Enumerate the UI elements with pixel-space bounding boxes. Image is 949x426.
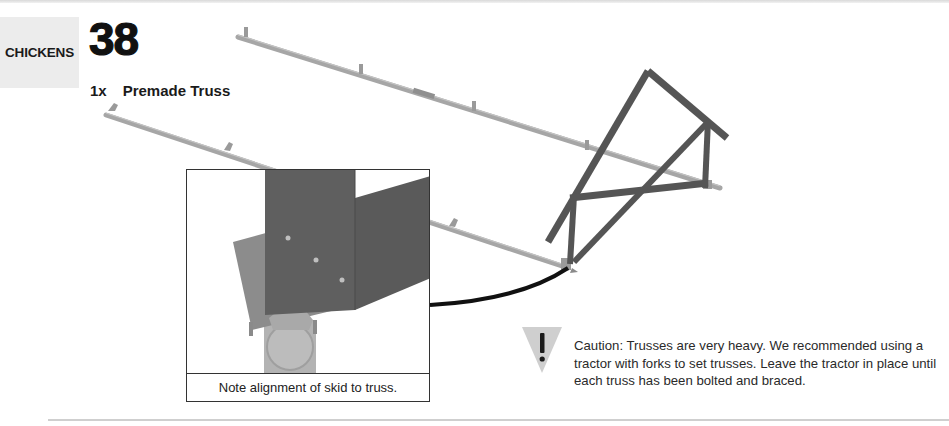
detail-inset: Note alignment of skid to truss. [186, 169, 430, 402]
bottom-rule [48, 419, 949, 421]
truss [548, 71, 727, 264]
back-skid [238, 27, 720, 189]
caution-note: Caution: Trusses are very heavy. We reco… [520, 325, 944, 390]
callout-line [430, 268, 568, 305]
warning-triangle-icon [520, 325, 564, 375]
inset-caption: Note alignment of skid to truss. [187, 373, 429, 401]
caution-text: Caution: Trusses are very heavy. We reco… [574, 337, 944, 390]
inset-illustration [187, 170, 430, 402]
